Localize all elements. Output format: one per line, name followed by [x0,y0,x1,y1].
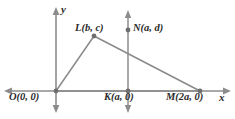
geometry-figure: L(b, c) N(a, d) O(0, 0) K(a, 0) M(2a, 0)… [0,0,235,119]
point-o-marker [54,89,59,94]
point-label-n: N(a, d) [133,23,163,34]
point-label-k: K(a, 0) [104,92,134,103]
segment-l-m [94,36,200,91]
y-axis [53,7,60,113]
point-n-marker [126,28,131,33]
x-axis-label: x [219,92,225,103]
vertical-line-down-arrowhead [125,105,131,113]
segment-o-l [56,36,94,91]
point-label-o: O(0, 0) [9,92,39,103]
y-axis-up-arrowhead [53,7,60,15]
point-l-marker [92,34,97,39]
y-axis-down-arrowhead [53,105,60,113]
point-label-m: M(2a, 0) [166,92,203,103]
y-axis-label: y [61,4,66,15]
vertical-line-up-arrowhead [125,10,131,18]
point-label-l: L(b, c) [75,23,104,34]
